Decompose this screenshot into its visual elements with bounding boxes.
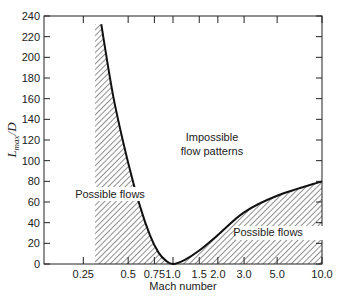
y-tick-label: 240 [22,10,40,22]
svg-text:Impossible: Impossible [186,131,239,143]
svg-text:flow patterns: flow patterns [181,145,244,157]
y-tick-label: 120 [22,134,40,146]
y-axis-label: Lmax/D [4,122,21,159]
x-axis-label: Mach number [149,280,217,292]
y-tick-label: 140 [22,113,40,125]
annotation-possible-right: Possible flows [233,226,303,238]
y-tick-label: 160 [22,93,40,105]
x-tick-label: 10.0 [311,268,332,280]
y-tick-label: 60 [28,196,40,208]
y-tick-label: 40 [28,217,40,229]
x-tick-label: 2.0 [210,268,225,280]
y-tick-label: 200 [22,51,40,63]
annotation-possible-left: Possible flows [75,188,145,200]
x-tick-label: 1.0 [165,268,180,280]
y-tick-label: 0 [34,258,40,270]
annotation-impossible: Impossible flow patterns [181,131,244,157]
y-tick-label: 100 [22,155,40,167]
x-tick-label: 0.25 [73,268,94,280]
x-tick-label: 1.5 [192,268,207,280]
y-tick-label: 20 [28,237,40,249]
x-tick-label: 3.0 [236,268,251,280]
x-tick-label: 5.0 [269,268,284,280]
y-tick-label: 80 [28,175,40,187]
y-tick-label: 220 [22,31,40,43]
chart: 0204060801001201401601802002202400.250.5… [0,0,338,299]
x-tick-label: 0.5 [120,268,135,280]
x-tick-label: 0.75 [144,268,165,280]
svg-text:Lmax/D: Lmax/D [4,122,21,159]
y-tick-label: 180 [22,72,40,84]
